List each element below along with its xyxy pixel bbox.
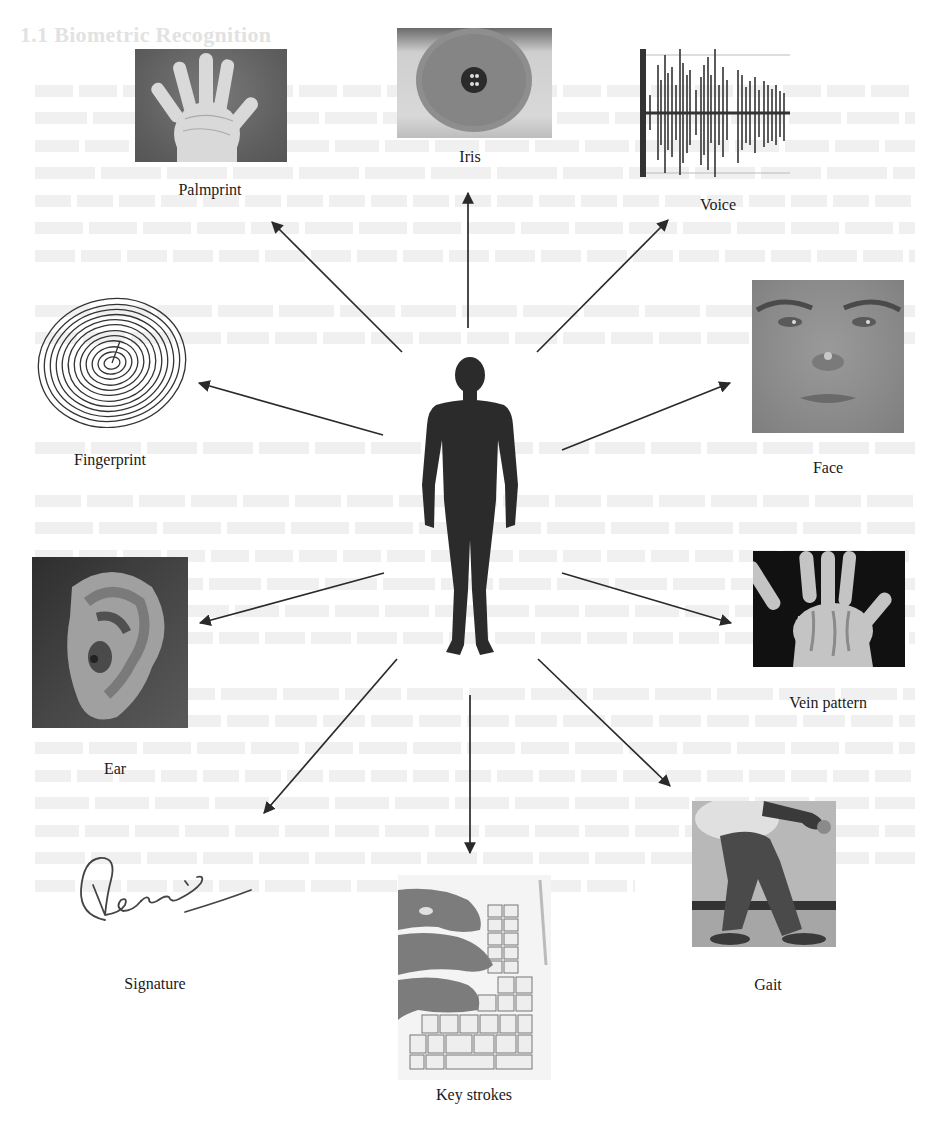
arrow-signature (264, 659, 397, 813)
human-silhouette-icon (422, 357, 518, 655)
arrow-voice (537, 220, 668, 352)
arrow-palmprint (272, 222, 402, 352)
arrow-vein (562, 573, 731, 623)
diagram-overlay (0, 0, 937, 1125)
arrow-gait (538, 659, 670, 786)
arrow-fingerprint (199, 383, 383, 435)
arrow-face (562, 383, 730, 450)
arrow-ear (200, 573, 384, 623)
